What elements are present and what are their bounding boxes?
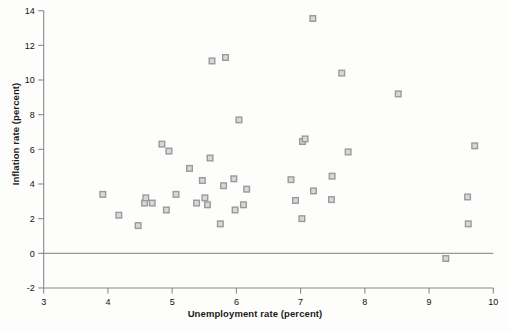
data-point-marker: [235, 116, 242, 123]
x-axis-tick-label: 6: [234, 297, 239, 307]
x-axis-tick-label: 3: [41, 297, 46, 307]
data-point-marker: [217, 220, 224, 227]
data-point-marker: [201, 194, 208, 201]
data-point-marker: [464, 193, 471, 200]
x-axis-tick-label: 10: [488, 297, 498, 307]
x-axis-label: Unemployment rate (percent): [0, 308, 510, 319]
x-axis-tick-label: 7: [298, 297, 303, 307]
y-axis-tick-label: 0: [30, 249, 35, 259]
y-axis-label-container: Inflation rate (percent): [5, 34, 23, 234]
y-axis-tick-label: 8: [30, 110, 35, 120]
x-axis-tick-label: 4: [105, 297, 110, 307]
y-axis-tick-label: 4: [30, 179, 35, 189]
data-point-marker: [193, 200, 200, 207]
data-point-marker: [165, 148, 172, 155]
x-axis-tick-label: 9: [427, 297, 432, 307]
data-point-marker: [163, 206, 170, 213]
data-point-marker: [158, 141, 165, 148]
data-point-marker: [465, 220, 472, 227]
scatter-plot-canvas: -202468101214345678910: [0, 0, 510, 331]
y-axis-tick-label: 2: [30, 214, 35, 224]
data-point-marker: [287, 176, 294, 183]
x-axis-tick-label: 8: [362, 297, 367, 307]
data-point-marker: [222, 54, 229, 61]
data-point-marker: [395, 90, 402, 97]
data-point-marker: [230, 175, 237, 182]
data-point-marker: [220, 182, 227, 189]
scatter-plot-figure: -202468101214345678910 Unemployment rate…: [0, 0, 510, 331]
data-point-marker: [329, 173, 336, 180]
data-point-marker: [149, 200, 156, 207]
data-point-marker: [310, 187, 317, 194]
data-point-marker: [207, 154, 214, 161]
data-point-marker: [442, 255, 449, 262]
y-axis-tick-label: 14: [25, 6, 35, 16]
data-point-marker: [302, 135, 309, 142]
data-point-marker: [208, 57, 215, 64]
data-point-marker: [115, 212, 122, 219]
data-point-marker: [204, 201, 211, 208]
y-axis-tick-label: 12: [25, 41, 35, 51]
data-point-marker: [298, 215, 305, 222]
y-axis-tick-label: 10: [25, 75, 35, 85]
data-point-marker: [173, 191, 180, 198]
data-point-marker: [292, 197, 299, 204]
data-point-marker: [471, 142, 478, 149]
data-point-marker: [345, 148, 352, 155]
data-point-marker: [99, 191, 106, 198]
data-point-marker: [186, 165, 193, 172]
data-point-marker: [142, 194, 149, 201]
y-axis-tick-label: -2: [27, 283, 35, 293]
y-axis-label: Inflation rate (percent): [10, 83, 21, 186]
data-point-marker: [328, 196, 335, 203]
data-point-marker: [338, 70, 345, 77]
data-point-marker: [232, 206, 239, 213]
data-point-marker: [135, 222, 142, 229]
x-axis-tick-label: 5: [170, 297, 175, 307]
data-point-marker: [309, 15, 316, 22]
data-point-marker: [240, 201, 247, 208]
data-point-marker: [243, 186, 250, 193]
y-axis-tick-label: 6: [30, 145, 35, 155]
data-point-marker: [199, 177, 206, 184]
